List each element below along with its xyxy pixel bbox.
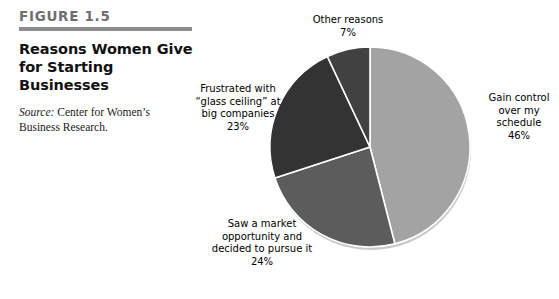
figure-number: FIGURE 1.5 (19, 8, 194, 24)
figure-source-note: Source: Center for Women’s Business Rese… (19, 105, 187, 135)
pie-slice-group (270, 47, 470, 247)
pie-label-gain-control: Gain control over my schedule 46% (480, 92, 558, 142)
pie-chart: Other reasons 7% Gain control over my sc… (170, 0, 559, 299)
pie-label-glass-ceiling: Frustrated with “glass ceiling” at big c… (178, 83, 298, 133)
pie-label-market-opportunity: Saw a market opportunity and decided to … (192, 218, 332, 268)
figure-caption-block: FIGURE 1.5 Reasons Women Give for Starti… (19, 8, 194, 135)
figure-divider-rule (19, 27, 192, 31)
source-label: Source: (19, 106, 54, 118)
pie-label-other-reasons: Other reasons 7% (288, 14, 408, 39)
